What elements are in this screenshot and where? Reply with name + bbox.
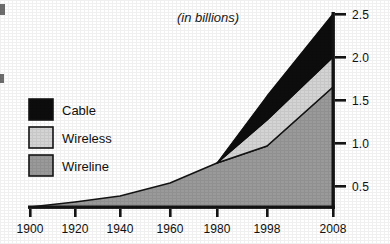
scan-edge-artifact-mid (0, 74, 4, 83)
chart-legend: Cable Wireless Wireline (29, 99, 112, 176)
x-tick-label-1998: 1998 (253, 222, 280, 236)
x-axis-line (28, 206, 335, 209)
scan-edge-artifact-top (0, 4, 5, 15)
chart-canvas: 1900 1920 1940 1960 1980 1998 2008 0.5 1… (0, 0, 390, 244)
x-tick-label-1960: 1960 (156, 222, 183, 236)
x-tick-label-2008: 2008 (319, 222, 346, 236)
y-tick-label-0-5: 0.5 (352, 180, 369, 194)
y-axis-ticks (335, 13, 346, 188)
y-axis-line (332, 12, 335, 209)
x-tick-label-1900: 1900 (16, 222, 43, 236)
legend-swatch-wireline (29, 155, 53, 176)
legend-swatch-wireless (29, 127, 53, 148)
x-tick-label-1920: 1920 (61, 222, 88, 236)
y-tick-label-1-5: 1.5 (352, 94, 369, 108)
stacked-area-chart: 1900 1920 1940 1960 1980 1998 2008 0.5 1… (0, 0, 390, 244)
chart-title: (in billions) (177, 10, 239, 25)
x-tick-label-1940: 1940 (106, 222, 133, 236)
legend-label-wireline: Wireline (62, 159, 109, 174)
y-tick-label-2-0: 2.0 (352, 51, 369, 65)
legend-label-wireless: Wireless (62, 131, 112, 146)
y-tick-label-2-5: 2.5 (352, 8, 369, 22)
x-axis-ticks (29, 209, 335, 217)
legend-label-cable: Cable (62, 103, 96, 118)
legend-swatch-cable (29, 99, 53, 120)
y-tick-label-1-0: 1.0 (352, 137, 369, 151)
x-tick-label-1980: 1980 (203, 222, 230, 236)
